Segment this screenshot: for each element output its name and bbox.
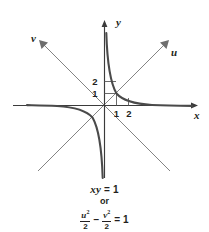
hyperbola-figure: y x u v 1 2 1 2 xy = 1 or u2 2 − v2 2 = (0, 0, 209, 232)
fraction-u-squared-over-two: u2 2 (80, 209, 90, 231)
u-axis-label: u (171, 46, 177, 58)
caption-xy-term: xy (90, 183, 101, 195)
y-tick-label-1: 1 (92, 88, 98, 99)
numerator-exponent-v: 2 (107, 209, 110, 215)
y-axis-arrowhead (102, 20, 108, 27)
minus-operator: − (93, 215, 99, 226)
caption-equation-primary: xy = 1 (0, 184, 209, 196)
y-axis-label: y (114, 16, 121, 28)
caption-equals-one: = 1 (101, 184, 119, 195)
caption-connector: or (0, 197, 209, 206)
fraction-denominator-v: 2 (104, 222, 108, 231)
hyperbola-branch-first-quadrant (106, 33, 192, 106)
caption-equation-secondary: u2 2 − v2 2 = 1 (0, 209, 209, 231)
fraction-numerator-u: u2 (80, 209, 90, 221)
hyperbola-branch-third-quadrant (27, 105, 103, 178)
fraction-denominator-u: 2 (83, 222, 87, 231)
x-tick-label-1: 1 (114, 108, 120, 119)
numerator-exponent-u: 2 (86, 209, 89, 215)
fraction-numerator-v: v2 (102, 209, 111, 221)
equals-sign: = (114, 215, 120, 226)
right-hand-side: 1 (123, 215, 129, 226)
figure-caption: xy = 1 or u2 2 − v2 2 = 1 (0, 184, 209, 231)
y-tick-label-2: 2 (92, 76, 97, 87)
x-tick-label-2: 2 (126, 108, 131, 119)
fraction-v-squared-over-two: v2 2 (102, 209, 111, 231)
x-axis-label: x (193, 109, 200, 121)
v-axis-label: v (31, 32, 36, 44)
